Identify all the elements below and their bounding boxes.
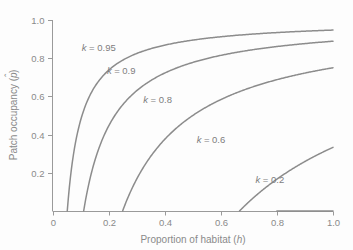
y-axis-tick-labels: 0.20.40.60.81.0 bbox=[31, 15, 44, 179]
patch-occupancy-chart: 00.20.40.60.81.0 0.20.40.60.81.0 k= 0.95… bbox=[0, 0, 353, 250]
curve-0-8 bbox=[123, 68, 333, 211]
x-tick-label: 0.2 bbox=[103, 217, 116, 228]
y-tick-label: 0.4 bbox=[31, 130, 44, 141]
data-curves bbox=[67, 30, 333, 211]
curve-label-0-2: k= 0.2 bbox=[256, 174, 285, 185]
curve-label-0-95: k= 0.95 bbox=[82, 42, 116, 53]
y-tick-label: 0.6 bbox=[31, 91, 44, 102]
curve-annotations: k= 0.95k= 0.9k= 0.8k= 0.6k= 0.2 bbox=[82, 42, 284, 185]
curve-0-6 bbox=[240, 147, 333, 211]
x-tick-label: 0.4 bbox=[159, 217, 172, 228]
y-tick-label: 0.2 bbox=[31, 168, 44, 179]
x-axis-tick-labels: 00.20.40.60.81.0 bbox=[51, 217, 340, 228]
chart-figure: 00.20.40.60.81.0 0.20.40.60.81.0 k= 0.95… bbox=[0, 0, 353, 250]
x-tick-label: 0 bbox=[51, 217, 56, 228]
y-tick-label: 1.0 bbox=[31, 15, 44, 26]
x-tick-label: 1.0 bbox=[327, 217, 340, 228]
y-axis-ticks bbox=[48, 21, 52, 174]
x-tick-label: 0.6 bbox=[215, 217, 228, 228]
x-tick-label: 0.8 bbox=[271, 217, 284, 228]
x-axis-title: Proportion of habitat (h) bbox=[140, 234, 245, 245]
y-axis-title: Patch occupancy (pˆ) bbox=[4, 70, 19, 161]
curve-label-0-6: k= 0.6 bbox=[197, 134, 226, 145]
y-tick-label: 0.8 bbox=[31, 53, 44, 64]
x-axis-ticks bbox=[54, 212, 334, 216]
curve-0-95 bbox=[67, 30, 333, 211]
curve-label-0-8: k= 0.8 bbox=[143, 94, 172, 105]
curve-label-0-9: k= 0.9 bbox=[107, 65, 136, 76]
